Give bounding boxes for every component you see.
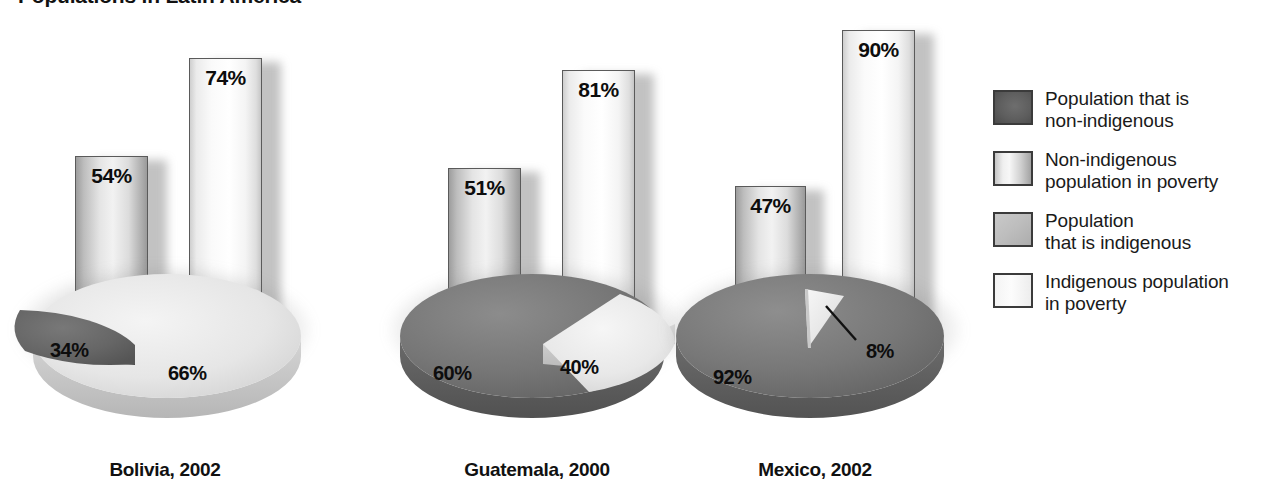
pie-mexico: 92% 8% — [658, 244, 973, 429]
legend-label-line1: Population that is — [1045, 88, 1189, 110]
legend-swatch-icon — [993, 90, 1033, 125]
country-group-bolivia: 54% 74% — [0, 0, 330, 501]
bar-value-label: 47% — [736, 194, 805, 218]
country-label-bolivia: Bolivia, 2002 — [0, 459, 330, 481]
bar-value-label: 51% — [449, 176, 520, 200]
legend-item-indigenous: Population that is indigenous — [993, 210, 1279, 254]
legend-label-line1: Population — [1045, 210, 1191, 232]
pie-guatemala-svg — [380, 244, 695, 429]
legend-swatch-icon — [993, 151, 1033, 186]
pie-bolivia-svg — [8, 244, 323, 429]
country-group-mexico: 47% 90% — [650, 0, 980, 501]
legend-label-line1: Indigenous population — [1045, 271, 1229, 293]
legend-swatch-icon — [993, 273, 1033, 308]
pie-label-indigenous: 66% — [168, 362, 207, 385]
chart-figure: Populations in Latin America 54% 74% — [0, 0, 1279, 501]
pie-label-indigenous: 8% — [866, 340, 894, 363]
legend-label: Population that is non-indigenous — [1045, 88, 1189, 132]
pie-guatemala: 60% 40% — [380, 244, 695, 429]
pie-mexico-svg — [658, 244, 973, 429]
bar-value-label: 74% — [190, 66, 261, 90]
legend-item-non-indigenous-poverty: Non-indigenous population in poverty — [993, 149, 1279, 193]
legend-label-line1: Non-indigenous — [1045, 149, 1218, 171]
bar-value-label: 81% — [563, 78, 634, 102]
legend-item-indigenous-poverty: Indigenous population in poverty — [993, 271, 1279, 315]
legend-label-line2: that is indigenous — [1045, 232, 1191, 254]
country-label-mexico: Mexico, 2002 — [650, 459, 980, 481]
chart-legend: Population that is non-indigenous Non-in… — [993, 88, 1279, 332]
pie-label-indigenous: 40% — [560, 356, 599, 379]
pie-bolivia: 34% 66% — [8, 244, 323, 429]
bar-value-label: 54% — [76, 164, 147, 188]
legend-item-non-indigenous: Population that is non-indigenous — [993, 88, 1279, 132]
legend-swatch-icon — [993, 212, 1033, 247]
bar-value-label: 90% — [843, 38, 914, 62]
pie-label-non-indigenous: 60% — [433, 362, 472, 385]
legend-label: Indigenous population in poverty — [1045, 271, 1229, 315]
legend-label: Non-indigenous population in poverty — [1045, 149, 1218, 193]
legend-label: Population that is indigenous — [1045, 210, 1191, 254]
legend-label-line2: non-indigenous — [1045, 110, 1189, 132]
pie-label-non-indigenous: 92% — [713, 366, 752, 389]
legend-label-line2: in poverty — [1045, 293, 1229, 315]
pie-label-non-indigenous: 34% — [50, 339, 89, 362]
legend-label-line2: population in poverty — [1045, 171, 1218, 193]
